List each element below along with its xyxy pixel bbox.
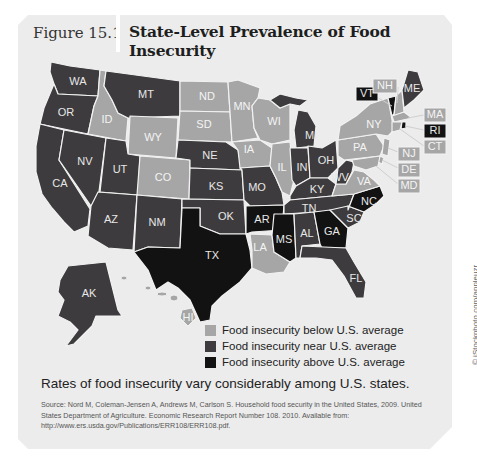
- label-AZ: AZ: [104, 213, 118, 225]
- label-VT: VT: [360, 87, 374, 99]
- label-CO: CO: [155, 171, 172, 183]
- figure-caption: Rates of food insecurity vary considerab…: [41, 376, 409, 391]
- label-MS: MS: [276, 233, 293, 245]
- label-KY: KY: [310, 183, 325, 195]
- label-IN: IN: [297, 161, 308, 173]
- label-MI: MI: [305, 129, 317, 141]
- label-WI: WI: [267, 115, 280, 127]
- legend-swatch-above: [205, 357, 216, 368]
- label-HI: HI: [183, 311, 194, 323]
- label-FL: FL: [350, 272, 363, 284]
- label-GA: GA: [324, 225, 341, 237]
- label-NH: NH: [377, 79, 393, 91]
- legend-label-near: Food insecurity near U.S. average: [222, 340, 397, 352]
- label-ND: ND: [199, 90, 215, 102]
- label-NC: NC: [361, 195, 377, 207]
- label-TN: TN: [302, 202, 317, 214]
- source-citation: Source: Nord M, Coleman-Jensen A, Andrew…: [41, 400, 441, 432]
- label-OK: OK: [218, 210, 235, 222]
- legend-item-below: Food insecurity below U.S. average: [205, 322, 405, 338]
- label-NE: NE: [202, 149, 217, 161]
- legend-item-above: Food insecurity above U.S. average: [205, 354, 405, 370]
- state-RI: [401, 122, 406, 129]
- label-AK: AK: [82, 287, 97, 299]
- label-SD: SD: [196, 118, 211, 130]
- legend-swatch-below: [205, 325, 216, 336]
- label-PA: PA: [353, 141, 368, 153]
- label-IA: IA: [244, 143, 255, 155]
- label-NV: NV: [77, 155, 93, 167]
- label-AR: AR: [254, 213, 269, 225]
- label-OR: OR: [58, 106, 75, 118]
- photo-credit: © iStockphoto.com/appleuzr: [471, 265, 477, 365]
- label-LA: LA: [253, 241, 267, 253]
- label-UT: UT: [113, 163, 128, 175]
- state-AK: [58, 262, 122, 346]
- label-TX: TX: [205, 249, 220, 261]
- label-IL: IL: [277, 161, 286, 173]
- label-NM: NM: [148, 216, 165, 228]
- label-MD: MD: [400, 179, 417, 191]
- map-legend: Food insecurity below U.S. average Food …: [205, 322, 405, 370]
- label-RI: RI: [430, 124, 441, 136]
- legend-item-near: Food insecurity near U.S. average: [205, 338, 405, 354]
- label-MN: MN: [233, 100, 250, 112]
- label-SC: SC: [346, 212, 361, 224]
- label-WY: WY: [144, 131, 162, 143]
- label-ID: ID: [102, 113, 113, 125]
- label-OH: OH: [318, 154, 335, 166]
- label-MO: MO: [248, 181, 266, 193]
- label-ME: ME: [404, 82, 421, 94]
- label-MA: MA: [427, 108, 444, 120]
- label-CT: CT: [428, 140, 443, 152]
- label-CA: CA: [52, 177, 68, 189]
- label-DE: DE: [401, 163, 416, 175]
- label-WA: WA: [69, 75, 87, 87]
- state-NJ: [382, 138, 390, 156]
- legend-label-above: Food insecurity above U.S. average: [222, 356, 405, 368]
- legend-label-below: Food insecurity below U.S. average: [222, 324, 404, 336]
- label-VA: VA: [357, 175, 372, 187]
- label-AL: AL: [300, 227, 313, 239]
- label-NJ: NJ: [402, 147, 415, 159]
- state-CT: [392, 122, 402, 132]
- legend-swatch-near: [205, 341, 216, 352]
- label-NY: NY: [366, 118, 382, 130]
- label-WV: WV: [331, 171, 349, 183]
- label-KS: KS: [209, 180, 224, 192]
- label-MT: MT: [138, 88, 154, 100]
